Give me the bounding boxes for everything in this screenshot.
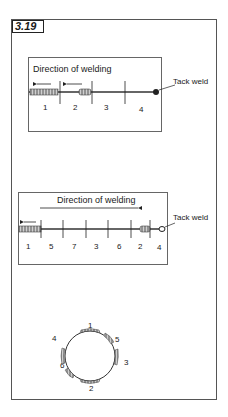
- weld-bead-1: [30, 89, 58, 95]
- weld-bead-1: [19, 226, 41, 232]
- panel2-joint: [19, 208, 175, 238]
- pipe-circle: [61, 329, 118, 384]
- tack-weld-dot: [153, 89, 159, 95]
- weld-bead-2: [79, 89, 91, 95]
- weld-bead-2: [140, 226, 150, 232]
- panel1-joint: [29, 81, 175, 104]
- tack-weld-dot: [159, 227, 165, 232]
- diagram-graphics: [0, 0, 228, 417]
